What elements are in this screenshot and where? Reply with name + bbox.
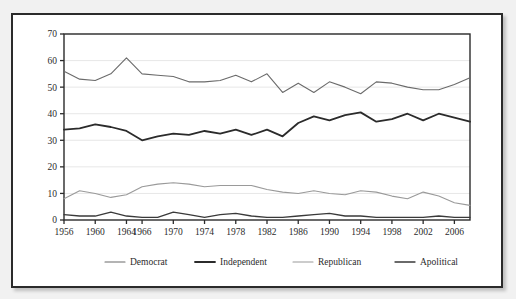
x-tick-label: 1960 [86,227,105,237]
x-tick-label: 1986 [289,227,308,237]
y-tick-label: 50 [48,83,58,93]
line-chart: 010203040506070 195619601964196619701974… [13,15,500,285]
legend-label-apolitical: Apolitical [420,257,458,267]
x-tick-label: 1966 [133,227,152,237]
x-tick-label: 1956 [55,227,74,237]
x-tick-label: 1974 [195,227,214,237]
y-tick-label: 20 [48,162,58,172]
x-tick-label: 1998 [382,227,401,237]
y-tick-label: 0 [52,215,57,225]
chart-figure-frame: 010203040506070 195619601964196619701974… [11,13,503,288]
y-tick-label: 60 [48,56,58,66]
y-tick-label: 70 [48,29,58,39]
x-tick-label: 1990 [320,227,339,237]
figure-root: 010203040506070 195619601964196619701974… [0,0,516,299]
x-tick-label: 1982 [258,227,277,237]
x-tick-label: 2006 [445,227,464,237]
legend-label-independent: Independent [220,257,267,267]
legend-label-democrat: Democrat [130,257,168,267]
y-tick-label: 10 [48,189,58,199]
legend-label-republican: Republican [318,257,362,267]
x-tick-label: 1970 [164,227,183,237]
y-tick-label: 30 [48,136,58,146]
cropped-caption-artifact [150,2,370,9]
x-tick-label: 1994 [351,227,370,237]
x-tick-label: 2002 [414,227,433,237]
y-tick-label: 40 [48,109,58,119]
plot-background [13,15,500,285]
x-tick-label: 1978 [226,227,245,237]
